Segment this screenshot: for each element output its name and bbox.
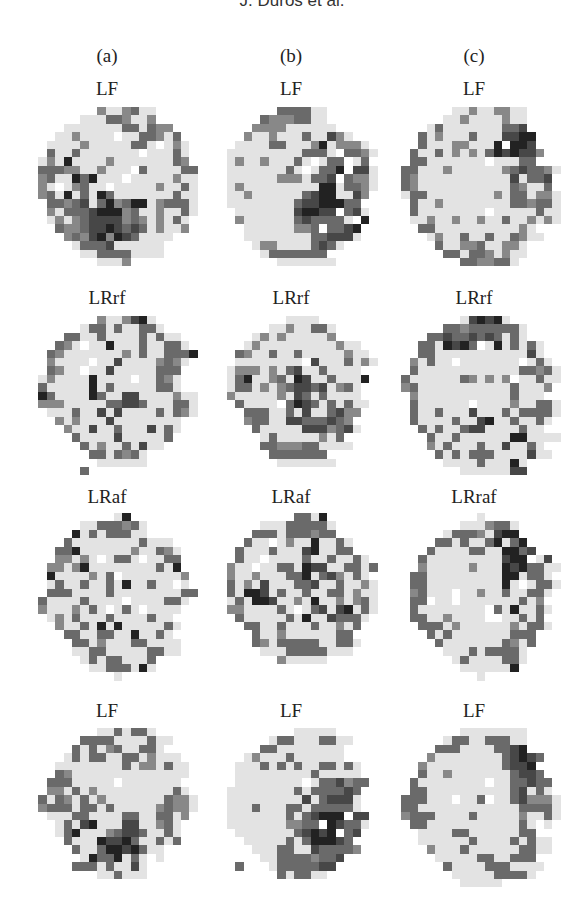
heatmap-cell xyxy=(30,400,38,408)
heatmap-cell xyxy=(252,141,260,149)
heatmap-cell xyxy=(286,728,294,736)
heatmap-cell xyxy=(519,614,527,622)
heatmap-cell xyxy=(218,459,226,467)
heatmap-cell xyxy=(361,475,369,483)
heatmap-cell xyxy=(477,383,485,391)
heatmap-cell xyxy=(443,467,451,475)
heatmap-cell xyxy=(460,324,468,332)
heatmap-cell xyxy=(544,812,552,820)
heatmap-cell xyxy=(106,350,114,358)
heatmap-cell xyxy=(218,241,226,249)
heatmap-cell xyxy=(47,250,55,258)
heatmap-cell xyxy=(294,753,302,761)
heatmap-cell xyxy=(131,132,139,140)
heatmap-cell xyxy=(344,333,352,341)
heatmap-cell xyxy=(469,521,477,529)
heatmap-cell xyxy=(485,417,493,425)
heatmap-cell xyxy=(72,887,80,895)
heatmap-cell xyxy=(469,141,477,149)
heatmap-cell xyxy=(494,216,502,224)
heatmap-cell xyxy=(260,622,268,630)
heatmap-cell xyxy=(536,728,544,736)
heatmap-cell xyxy=(527,854,535,862)
heatmap-cell xyxy=(277,124,285,132)
heatmap-cell xyxy=(106,241,114,249)
heatmap-cell xyxy=(527,132,535,140)
heatmap-cell xyxy=(106,589,114,597)
heatmap-cell xyxy=(55,597,63,605)
heatmap-cell xyxy=(393,450,401,458)
heatmap-cell xyxy=(227,630,235,638)
heatmap-cell xyxy=(319,664,327,672)
heatmap-cell xyxy=(494,555,502,563)
heatmap-cell xyxy=(286,333,294,341)
heatmap-cell xyxy=(443,132,451,140)
heatmap-cell xyxy=(244,149,252,157)
heatmap-cell xyxy=(227,149,235,157)
heatmap-cell xyxy=(401,795,409,803)
heatmap-cell xyxy=(477,166,485,174)
heatmap-cell xyxy=(64,656,72,664)
heatmap-cell xyxy=(401,753,409,761)
heatmap-cell xyxy=(469,770,477,778)
heatmap-cell xyxy=(189,572,197,580)
heatmap-cell xyxy=(361,417,369,425)
heatmap-cell xyxy=(369,829,377,837)
heatmap-cell xyxy=(361,887,369,895)
heatmap-cell xyxy=(319,459,327,467)
heatmap-cell xyxy=(189,241,197,249)
heatmap-cell xyxy=(218,375,226,383)
heatmap-cell xyxy=(344,358,352,366)
heatmap-cell xyxy=(477,124,485,132)
heatmap-cell xyxy=(510,630,518,638)
heatmap-cell xyxy=(269,555,277,563)
heatmap-cell xyxy=(47,795,55,803)
heatmap-cell xyxy=(393,433,401,441)
heatmap-cell xyxy=(164,350,172,358)
heatmap-cell xyxy=(189,266,197,274)
heatmap-cell xyxy=(510,795,518,803)
heatmap-cell xyxy=(252,614,260,622)
heatmap-cell xyxy=(210,425,218,433)
heatmap-cell xyxy=(38,538,46,546)
heatmap-cell xyxy=(302,442,310,450)
heatmap-cell xyxy=(106,521,114,529)
heatmap-cell xyxy=(393,728,401,736)
heatmap-cell xyxy=(286,820,294,828)
heatmap-cell xyxy=(469,166,477,174)
heatmap-cell xyxy=(89,233,97,241)
heatmap-cell xyxy=(131,871,139,879)
heatmap-cell xyxy=(235,141,243,149)
heatmap-cell xyxy=(485,820,493,828)
heatmap-cell xyxy=(156,812,164,820)
heatmap-cell xyxy=(139,417,147,425)
heatmap-cell xyxy=(369,333,377,341)
heatmap-cell xyxy=(527,383,535,391)
heatmap-cell xyxy=(156,266,164,274)
heatmap-cell xyxy=(469,787,477,795)
heatmap-cell xyxy=(302,383,310,391)
heatmap-cell xyxy=(38,887,46,895)
heatmap-cell xyxy=(89,672,97,680)
heatmap-cell xyxy=(227,350,235,358)
heatmap-cell xyxy=(72,425,80,433)
heatmap-cell xyxy=(336,233,344,241)
heatmap-cell xyxy=(286,475,294,483)
heatmap-cell xyxy=(443,450,451,458)
heatmap-cell xyxy=(393,639,401,647)
heatmap-cell xyxy=(286,879,294,887)
heatmap-cell xyxy=(269,141,277,149)
heatmap-cell xyxy=(510,879,518,887)
heatmap-cell xyxy=(544,341,552,349)
heatmap-cell xyxy=(353,224,361,232)
heatmap-cell xyxy=(173,879,181,887)
heatmap-cell xyxy=(311,762,319,770)
heatmap-cell xyxy=(97,605,105,613)
heatmap-cell xyxy=(460,467,468,475)
heatmap-cell xyxy=(353,459,361,467)
heatmap-cell xyxy=(519,580,527,588)
heatmap-cell xyxy=(164,820,172,828)
heatmap-cell xyxy=(401,250,409,258)
heatmap-cell xyxy=(173,233,181,241)
heatmap-cell xyxy=(277,115,285,123)
